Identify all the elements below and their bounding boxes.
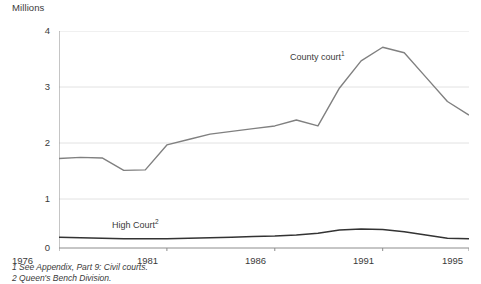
y-tick-label-2: 2 [28,138,50,148]
y-tick-label-4: 4 [28,26,50,36]
plot-area [59,31,469,248]
footnote-2: 2 Queen's Bench Division. [12,273,148,284]
y-tick-label-1: 1 [28,194,50,204]
x-tick-label-1991: 1991 [353,255,374,266]
chart-figure: Millions 4 3 2 1 0 1976 1981 1986 1991 1… [0,0,481,284]
line-chart-svg [59,31,469,251]
footnotes: 1 See Appendix, Part 9: Civil courts. 2 … [12,262,148,284]
y-tick-label-3: 3 [28,82,50,92]
data-line-county-court [59,47,469,170]
y-axis-tick-labels: 4 3 2 1 0 [26,0,50,284]
x-tick-label-1986: 1986 [245,255,266,266]
x-tick-label-1995: 1995 [442,255,463,266]
axes [59,31,469,251]
data-line-high-court [59,229,469,239]
y-tick-label-0: 0 [28,243,50,253]
footnote-1: 1 See Appendix, Part 9: Civil courts. [12,262,148,273]
